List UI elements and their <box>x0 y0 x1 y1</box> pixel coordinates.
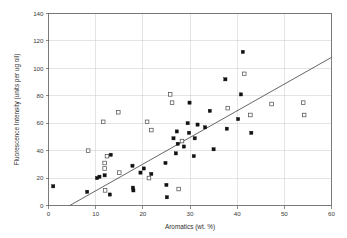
data-point-filled-square <box>52 185 55 188</box>
x-tick-label: 20 <box>139 210 146 217</box>
data-point-filled-square <box>165 183 168 186</box>
data-point-filled-square <box>108 193 111 196</box>
data-point-filled-square <box>172 137 175 140</box>
x-tick-label: 40 <box>234 210 241 217</box>
data-point-open-square <box>147 176 151 180</box>
y-tick-label: 60 <box>37 119 44 126</box>
data-point-open-square <box>105 154 109 158</box>
data-point-filled-square <box>176 142 179 145</box>
data-point-open-square <box>242 72 246 76</box>
regression-trend-line <box>70 57 332 205</box>
data-point-filled-square <box>224 78 227 81</box>
data-point-filled-square <box>86 190 89 193</box>
data-point-filled-square <box>103 174 106 177</box>
y-tick-label: 100 <box>33 65 44 72</box>
data-point-filled-square <box>139 171 142 174</box>
data-point-filled-square <box>250 131 253 134</box>
data-point-filled-square <box>196 123 199 126</box>
data-point-open-square <box>180 139 184 143</box>
chart-canvas: 0204060801001201400102030405060Aromatics… <box>0 0 347 238</box>
data-point-filled-square <box>150 172 153 175</box>
x-axis-title: Aromatics (wt. %) <box>165 223 215 231</box>
data-point-filled-square <box>187 131 190 134</box>
data-point-filled-square <box>98 175 101 178</box>
data-point-open-square <box>150 128 154 132</box>
data-point-open-square <box>86 149 90 153</box>
y-tick-label: 80 <box>37 92 44 99</box>
x-tick-label: 60 <box>328 210 335 217</box>
data-point-open-square <box>103 161 107 165</box>
y-axis-title: Fluorescence Intensity (units per ug oil… <box>13 54 21 166</box>
data-point-open-square <box>170 101 174 105</box>
y-tick-label: 0 <box>40 202 44 209</box>
x-tick-label: 50 <box>281 210 288 217</box>
data-point-filled-square <box>225 127 228 130</box>
data-point-filled-square <box>142 167 145 170</box>
data-point-filled-square <box>186 122 189 125</box>
y-tick-label: 120 <box>33 37 44 44</box>
data-point-filled-square <box>239 93 242 96</box>
data-point-filled-square <box>131 164 134 167</box>
y-tick-label: 20 <box>37 174 44 181</box>
data-point-open-square <box>249 113 253 117</box>
data-point-filled-square <box>132 189 135 192</box>
data-point-filled-square <box>241 50 244 53</box>
data-point-open-square <box>103 167 107 171</box>
data-point-filled-square <box>182 145 185 148</box>
data-point-filled-square <box>175 130 178 133</box>
data-point-filled-square <box>237 118 240 121</box>
x-tick-label: 30 <box>187 210 194 217</box>
data-point-open-square <box>101 120 105 124</box>
data-point-open-square <box>168 93 172 97</box>
data-point-filled-square <box>188 101 191 104</box>
x-tick-label: 0 <box>47 210 51 217</box>
data-point-open-square <box>145 120 149 124</box>
data-point-open-square <box>302 113 306 117</box>
data-point-filled-square <box>192 155 195 158</box>
data-point-filled-square <box>212 148 215 151</box>
data-point-open-square <box>226 106 230 110</box>
y-tick-label: 140 <box>33 10 44 17</box>
data-point-filled-square <box>203 126 206 129</box>
data-point-open-square <box>270 102 274 106</box>
data-point-filled-square <box>174 152 177 155</box>
y-tick-label: 40 <box>37 147 44 154</box>
data-point-filled-square <box>193 137 196 140</box>
data-point-filled-square <box>164 161 167 164</box>
data-point-open-square <box>177 187 181 191</box>
scatter-chart-figure: 0204060801001201400102030405060Aromatics… <box>0 0 347 238</box>
data-point-filled-square <box>208 109 211 112</box>
data-point-open-square <box>117 171 121 175</box>
data-point-filled-square <box>165 196 168 199</box>
data-point-open-square <box>117 110 121 114</box>
data-point-filled-square <box>109 153 112 156</box>
x-tick-label: 10 <box>92 210 99 217</box>
data-point-open-square <box>103 189 107 193</box>
data-point-open-square <box>301 101 305 105</box>
